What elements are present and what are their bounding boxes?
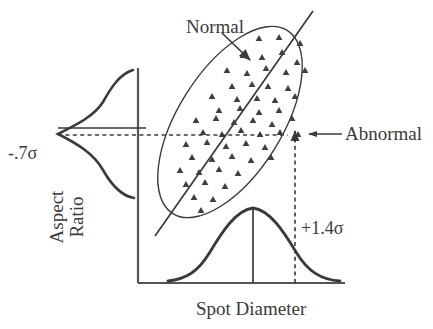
scatter-marker	[276, 34, 283, 40]
scatter-marker	[222, 183, 229, 189]
scatter-marker	[256, 35, 263, 41]
y-axis-label: Aspect Ratio	[47, 182, 123, 252]
scatter-marker	[248, 157, 255, 163]
scatter-marker	[202, 179, 209, 185]
scatter-marker	[263, 65, 270, 71]
scatter-marker	[285, 85, 292, 91]
marginal-distribution-y	[58, 70, 146, 198]
scatter-marker	[213, 115, 220, 121]
scatter-marker	[229, 153, 236, 159]
scatter-marker	[259, 54, 266, 60]
sigma-low-label: -.7σ	[8, 144, 37, 162]
annotation-arrows	[222, 33, 342, 134]
scatter-marker	[200, 129, 207, 135]
scatter-marker	[234, 96, 241, 102]
scatter-marker	[223, 143, 230, 149]
scatter-marker	[177, 167, 184, 173]
scatter-marker	[272, 97, 279, 103]
x-axis-label: Spot Diameter	[196, 299, 306, 318]
scatter-marker	[183, 141, 190, 147]
figure-container: Normal Abnormal -.7σ +1.4σ Spot Diameter…	[0, 0, 433, 329]
scatter-marker	[193, 117, 200, 123]
scatter-marker	[243, 140, 250, 146]
scatter-marker	[283, 69, 290, 75]
scatter-marker	[204, 139, 211, 145]
figure-canvas	[0, 0, 433, 329]
scatter-marker	[219, 131, 226, 137]
scatter-marker	[277, 129, 284, 135]
axis-frame	[138, 68, 345, 283]
scatter-marker	[229, 83, 236, 89]
scatter-marker	[256, 109, 263, 115]
scatter-marker	[276, 107, 283, 113]
scatter-marker	[238, 127, 245, 133]
scatter-marker	[262, 144, 269, 150]
scatter-marker	[224, 67, 231, 73]
y-axis-label-line-2: Ratio	[67, 182, 87, 252]
scatter-marker	[244, 70, 251, 76]
y-axis-label-line-1: Aspect	[47, 182, 67, 252]
scatter-marker	[257, 131, 264, 137]
scatter-marker	[250, 117, 257, 123]
sigma-high-label: +1.4σ	[301, 219, 343, 237]
scatter-marker	[183, 181, 190, 187]
y-distribution-curve	[58, 70, 134, 198]
scatter-marker	[294, 59, 301, 65]
scatter-marker	[198, 207, 205, 213]
scatter-marker	[249, 81, 256, 87]
normal-label: Normal	[186, 17, 244, 36]
scatter-marker	[289, 115, 296, 121]
scatter-marker	[254, 95, 261, 101]
scatter-marker	[269, 121, 276, 127]
scatter-marker	[235, 170, 242, 176]
scatter-marker	[237, 105, 244, 111]
scatter-marker	[191, 194, 198, 200]
scatter-marker	[265, 83, 272, 89]
abnormal-label: Abnormal	[345, 124, 422, 143]
scatter-marker	[210, 196, 217, 202]
scatter-marker	[189, 154, 196, 160]
scatter-marker	[216, 107, 223, 113]
normal-cluster-ellipse	[129, 3, 332, 241]
scatter-marker	[209, 93, 216, 99]
scatter-marker	[216, 166, 223, 172]
